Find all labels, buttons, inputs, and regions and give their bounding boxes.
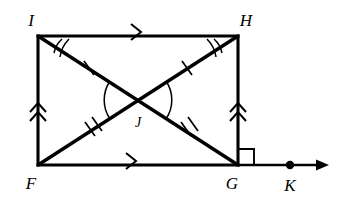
vertex-label-H: H [239, 11, 254, 30]
vertex-label-F: F [25, 174, 37, 193]
parallel-mark-IH [131, 24, 141, 40]
right-angle-marker-G [238, 149, 254, 165]
tick-JG-2 [188, 117, 198, 131]
vertex-label-J: J [135, 115, 142, 130]
vertex-label-K: K [283, 176, 297, 195]
vertex-label-G: G [226, 174, 238, 193]
angle-arc-J-left [104, 81, 110, 119]
parallel-mark-FG [126, 153, 136, 169]
geometry-figure: I H F G J K [0, 0, 341, 205]
geometry-canvas: I H F G J K [0, 0, 341, 205]
vertex-label-I: I [27, 11, 35, 30]
ray-arrowhead-icon [316, 160, 329, 171]
point-K-dot [286, 161, 294, 169]
angle-arc-J-right [166, 81, 172, 119]
